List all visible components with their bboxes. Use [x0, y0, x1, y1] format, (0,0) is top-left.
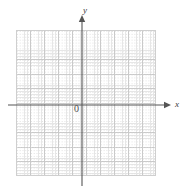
- x-axis-arrowhead: [164, 102, 171, 108]
- y-axis-label: y: [83, 6, 87, 15]
- y-axis-arrowhead: [79, 15, 85, 22]
- axes-group: [0, 0, 187, 190]
- x-axis-label: x: [175, 100, 179, 109]
- coordinate-plane-figure: y x 0: [0, 0, 187, 190]
- origin-label: 0: [74, 104, 79, 114]
